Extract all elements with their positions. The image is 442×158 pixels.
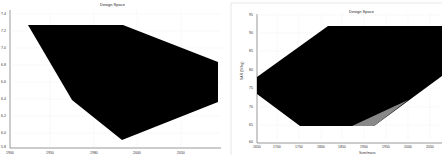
- design-space-region: [257, 26, 442, 126]
- left-chart-plot: [0, 0, 221, 158]
- y-tick: 5.8: [1, 145, 6, 149]
- x-tick: 1650: [253, 145, 261, 149]
- y-tick: 7.4: [1, 12, 6, 16]
- x-tick: 1750: [295, 145, 303, 149]
- x-tick: 1900: [360, 145, 368, 149]
- design-space-region: [28, 25, 218, 140]
- y-tick: 6.6: [1, 80, 6, 84]
- y-tick: 95: [249, 13, 253, 17]
- y-tick: 65: [249, 123, 253, 127]
- right-chart-panel: Design Space SAR (W/kg) Sum/mass 95 90 8…: [221, 0, 442, 158]
- x-tick: 1900: [6, 151, 14, 155]
- x-tick: 2050: [426, 145, 434, 149]
- left-chart-panel: Design Space 7.4 7.2 7.0 6.8 6.6 6.4 6.2…: [0, 0, 221, 158]
- y-tick: 7.0: [1, 46, 6, 50]
- y-tick: 90: [249, 31, 253, 35]
- y-tick: 80: [249, 68, 253, 72]
- y-tick: 6.8: [1, 63, 6, 67]
- y-axis-label: SAR (W/kg): [240, 62, 244, 80]
- x-tick: 1850: [338, 145, 346, 149]
- chart-title: Design Space: [349, 9, 374, 14]
- x-axis-label: Sum/mass: [359, 151, 376, 155]
- y-tick: 7.2: [1, 29, 6, 33]
- y-tick: 75: [249, 86, 253, 90]
- x-tick: 2000: [404, 145, 412, 149]
- x-tick: 1700: [273, 145, 281, 149]
- y-tick: 6.4: [1, 97, 6, 101]
- y-tick: 60: [249, 140, 253, 144]
- y-tick: 6.2: [1, 114, 6, 118]
- x-tick: 1950: [46, 151, 54, 155]
- y-tick: 85: [249, 49, 253, 53]
- x-tick: 1800: [317, 145, 325, 149]
- x-tick: 1980: [90, 151, 98, 155]
- y-tick: 70: [249, 105, 253, 109]
- x-tick: 2000: [133, 151, 141, 155]
- x-tick: 2050: [177, 151, 185, 155]
- x-tick: 1950: [382, 145, 390, 149]
- y-tick: 6.0: [1, 131, 6, 135]
- chart-title: Design Space: [100, 2, 125, 7]
- right-chart-plot: [221, 0, 442, 158]
